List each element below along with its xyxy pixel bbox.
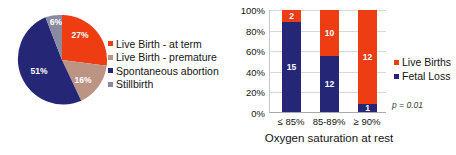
legend-label: Live Births [402,57,451,68]
legend-label: Fetal Loss [402,71,450,82]
bar-column-le-85[interactable]: 2 15 [282,10,301,112]
legend-swatch-icon [108,82,113,87]
y-tick-label: 100% [241,5,265,16]
p-value-annotation: p = 0.01 [392,100,423,110]
pie-chart-panel: 27% 16% 51% 6% Live Birth - at term Live… [0,0,228,155]
x-tick-label-ge-90: ≥ 90% [354,116,381,127]
bar-segment-live-births[interactable]: 10 [320,10,339,56]
y-tick-label: 40% [246,66,265,77]
bar-chart-x-axis: ≤ 85% 85-89% ≥ 90% [269,116,390,130]
pie-slices [18,15,107,105]
pie-label-spontaneous-abortion: 51% [30,66,47,76]
bar-segment-value: 10 [325,29,334,38]
y-tick-label: 80% [246,25,265,36]
legend-swatch-icon [108,55,113,60]
legend-item-fetal-loss: Fetal Loss [394,69,456,83]
legend-item-live-birth-premature: Live Birth - premature [108,51,230,65]
legend-item-spontaneous-abortion: Spontaneous abortion [108,64,230,78]
x-axis-title: Oxygen saturation at rest [244,132,414,144]
bar-chart-plot-area: 2 15 10 12 12 1 [269,10,386,113]
pie-label-live-birth-premature: 16% [74,75,91,85]
bar-chart-legend: Live Births Fetal Loss [394,55,456,83]
bar-segment-value: 15 [287,63,296,72]
y-tick-label: 60% [246,46,265,57]
pie-slice-live-birth-at-term [62,15,107,66]
bar-segment-value: 12 [325,80,334,89]
legend-label: Live Birth - at term [116,39,202,50]
legend-swatch-icon [394,74,399,79]
legend-item-live-births: Live Births [394,55,456,69]
bar-chart-y-axis: 100% 80% 60% 40% 20% 0% [228,0,268,118]
bar-segment-value: 1 [365,104,370,112]
bar-segment-fetal-loss[interactable]: 12 [320,56,339,112]
pie-label-live-birth-at-term: 27% [71,30,88,40]
bar-column-ge-90[interactable]: 12 1 [358,10,377,112]
legend-label: Stillbirth [116,79,153,90]
bar-segment-value: 2 [289,12,294,21]
pie-chart-figure: 27% 16% 51% 6% [14,12,110,108]
legend-label: Spontaneous abortion [116,66,219,77]
pie-chart-legend: Live Birth - at term Live Birth - premat… [108,37,230,91]
bar-segment-live-births[interactable]: 2 [282,10,301,22]
pie-label-stillbirth: 6% [50,17,63,27]
y-tick-label: 20% [246,87,265,98]
bar-column-85-89[interactable]: 10 12 [320,10,339,112]
y-tick-label: 0% [251,108,265,119]
pie-chart-svg: 27% 16% 51% 6% [14,12,110,108]
legend-item-live-birth-at-term: Live Birth - at term [108,37,230,51]
legend-item-stillbirth: Stillbirth [108,78,230,92]
bar-segment-value: 12 [363,53,372,62]
legend-label: Live Birth - premature [116,52,217,63]
legend-swatch-icon [108,68,113,73]
bar-segment-fetal-loss[interactable]: 15 [282,22,301,112]
legend-swatch-icon [108,41,113,46]
bar-segment-fetal-loss[interactable]: 1 [358,104,377,112]
bar-segment-live-births[interactable]: 12 [358,10,377,104]
legend-swatch-icon [394,60,399,65]
x-tick-label-le-85: ≤ 85% [278,116,305,127]
x-tick-label-85-89: 85-89% [313,116,346,127]
bar-chart-panel: 100% 80% 60% 40% 20% 0% 2 15 10 12 [228,0,456,155]
